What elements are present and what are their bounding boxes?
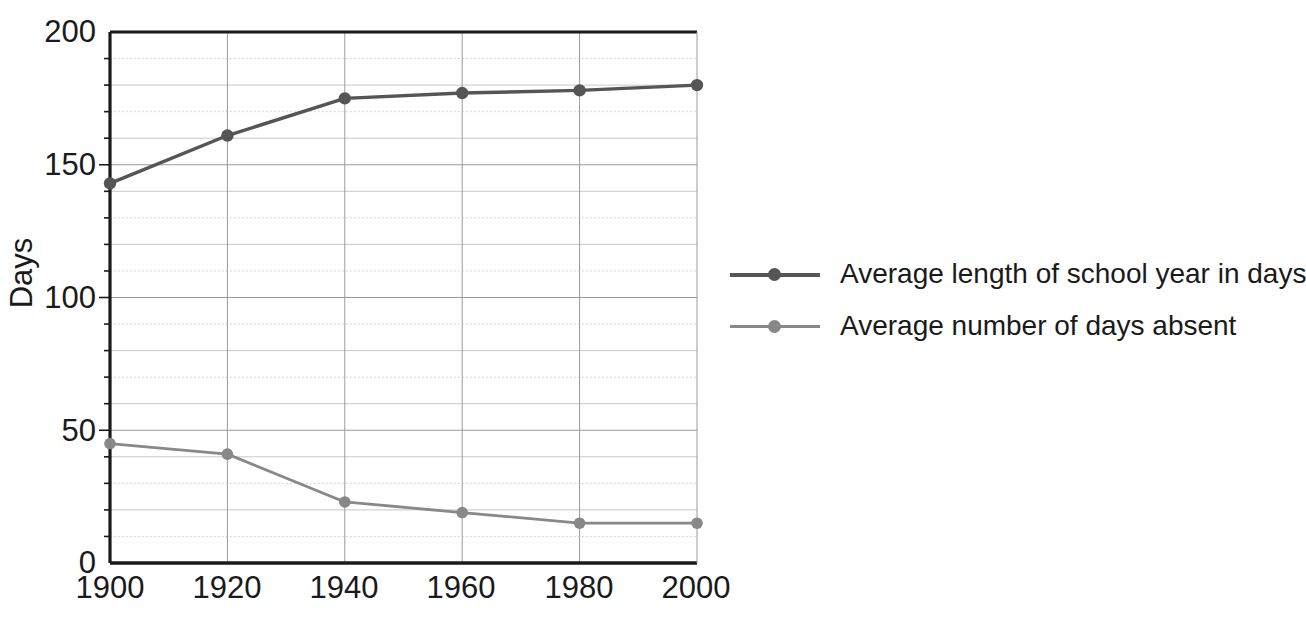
data-point[interactable] — [456, 507, 468, 519]
axis-ticks — [99, 59, 110, 537]
series-1-line — [104, 79, 703, 190]
data-point[interactable] — [104, 438, 116, 450]
legend-label-days-absent: Average number of days absent — [840, 310, 1236, 342]
data-point[interactable] — [456, 87, 468, 99]
grid-major-lines — [110, 165, 697, 431]
data-point[interactable] — [339, 496, 351, 508]
legend-swatch-days-absent — [730, 316, 820, 336]
data-point[interactable] — [221, 129, 233, 141]
legend-item-school-year[interactable]: Average length of school year in days — [730, 252, 1306, 296]
data-point[interactable] — [691, 517, 703, 529]
data-point[interactable] — [573, 84, 585, 96]
data-point[interactable] — [104, 177, 116, 189]
data-point[interactable] — [222, 448, 234, 460]
data-point[interactable] — [691, 79, 703, 91]
chart-legend: Average length of school year in days Av… — [730, 252, 1306, 356]
data-point[interactable] — [574, 517, 586, 529]
legend-item-days-absent[interactable]: Average number of days absent — [730, 304, 1306, 348]
legend-label-school-year: Average length of school year in days — [840, 258, 1306, 290]
data-series-layer — [104, 79, 703, 529]
data-point[interactable] — [339, 92, 351, 104]
legend-swatch-school-year — [730, 264, 820, 284]
